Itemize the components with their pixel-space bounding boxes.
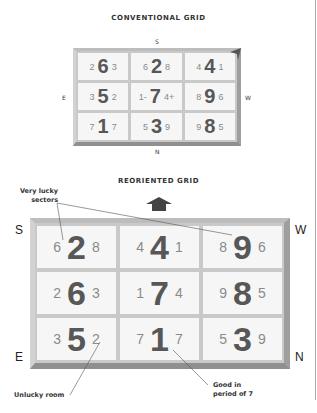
- annotation-line: Very lucky: [14, 187, 58, 196]
- annotation-line: sectors: [14, 196, 58, 205]
- annotation-unlucky-room: Unlucky room: [14, 391, 64, 400]
- annotation-line: Good in: [213, 381, 253, 390]
- leader-lines: [0, 0, 317, 413]
- annotation-good-in-period-7: Good in period of 7: [213, 381, 253, 399]
- annotation-very-lucky: Very lucky sectors: [14, 187, 58, 205]
- annotation-line: period of 7: [213, 390, 253, 399]
